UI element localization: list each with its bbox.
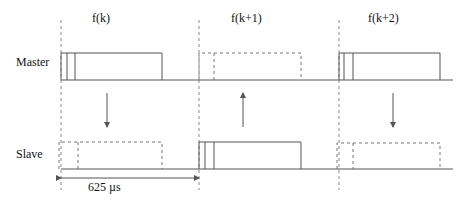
slave-rx-window-k2 [337,143,440,169]
master-rx-window-k1 [199,53,301,80]
duration-label: 625 µs [88,180,121,194]
slot-label-k: f(k) [92,11,110,25]
slot-label-k1: f(k+1) [231,11,262,25]
duration-dimension: 625 µs [61,178,199,194]
slave-rx-window-k [59,142,162,169]
master-tx-packet-k [61,53,162,80]
slot-boundaries [61,20,339,190]
master-tx-packet-k2 [339,53,440,80]
row-label-master: Master [16,55,49,69]
slave-tx-packet-k1 [199,142,301,169]
timing-diagram: f(k) f(k+1) f(k+2) Master Slave [0,0,465,202]
slot-label-k2: f(k+2) [368,11,399,25]
row-label-slave: Slave [16,147,43,161]
